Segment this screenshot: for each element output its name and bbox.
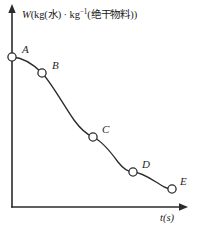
data-point-label-e: E <box>180 176 187 187</box>
data-point-label-c: C <box>102 124 110 135</box>
x-axis-label: t(s) <box>160 213 174 224</box>
data-point-label-a: A <box>22 44 29 55</box>
data-point-label-d: D <box>142 159 150 170</box>
data-point-marker-b <box>38 69 46 77</box>
y-axis-water-char: 水 <box>48 9 58 20</box>
data-point-marker-c <box>89 133 97 141</box>
x-axis-arrow-icon <box>179 203 188 210</box>
data-point-label-b: B <box>52 60 59 71</box>
y-axis-open-paren: (kg( <box>31 9 48 20</box>
y-axis-close-paren: )) <box>130 9 137 20</box>
data-point-marker-a <box>8 53 16 61</box>
y-axis-mid-text: ) · kg <box>58 9 80 20</box>
data-point-marker-d <box>129 168 137 176</box>
data-point-marker-e <box>168 185 176 193</box>
y-axis-dry-solid-text: 绝干物料 <box>91 9 131 20</box>
y-axis-symbol: W <box>22 9 31 20</box>
y-axis-arrow-icon <box>8 4 15 13</box>
y-axis-label: W(kg(水) · kg−1(绝干物料)) <box>22 9 137 20</box>
chart-canvas <box>0 0 200 234</box>
drying-curve-figure: W(kg(水) · kg−1(绝干物料)) t(s) A B C D E <box>0 0 200 234</box>
